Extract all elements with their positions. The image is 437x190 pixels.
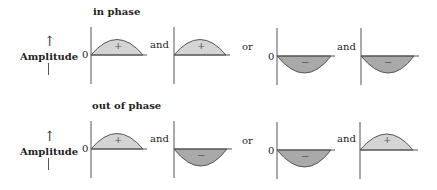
sign-label: + bbox=[197, 40, 205, 51]
panel-positive-lobe bbox=[174, 27, 230, 84]
sign-label: + bbox=[114, 40, 122, 51]
sign-label: + bbox=[383, 134, 391, 145]
panel-positive-lobe bbox=[360, 122, 418, 179]
sign-label: − bbox=[301, 57, 309, 68]
sign-label: + bbox=[114, 134, 122, 145]
panel-positive-lobe bbox=[91, 121, 147, 178]
sign-label: − bbox=[384, 57, 392, 68]
sign-label: − bbox=[197, 150, 205, 161]
wave-diagram bbox=[0, 0, 437, 190]
panel-positive-lobe bbox=[91, 27, 147, 84]
sign-label: − bbox=[301, 151, 309, 162]
